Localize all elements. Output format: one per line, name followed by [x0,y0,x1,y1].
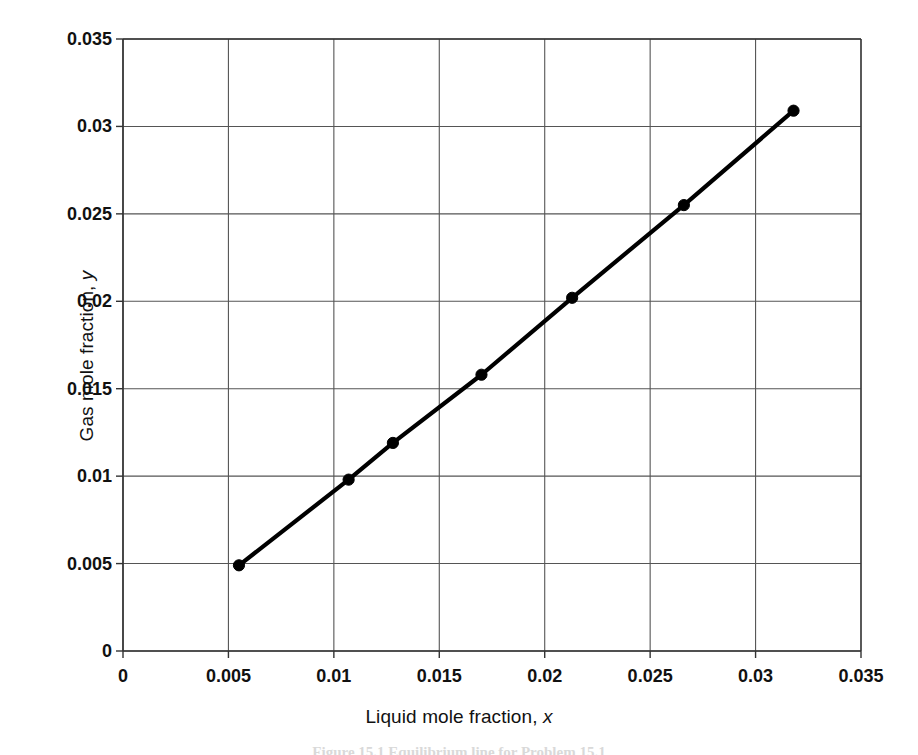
data-point-marker [678,200,689,211]
x-tick-label: 0.01 [316,666,351,687]
y-axis-title: Gas mole fraction, y [76,50,98,662]
x-tick-label: 0 [118,666,128,687]
x-tick-label: 0.035 [838,666,883,687]
y-axis-title-text: Gas mole fraction, [76,280,97,441]
series-line [239,111,794,566]
data-point-marker [788,105,799,116]
x-axis-title: Liquid mole fraction, x [0,706,918,728]
figure-root: 00.0050.010.0150.020.0250.030.035 00.005… [0,0,918,755]
x-tick-label: 0.03 [738,666,773,687]
gridlines-group [123,39,861,651]
figure-caption: Figure 15.1 Equilibrium line for Problem… [0,744,918,755]
data-point-marker [387,437,398,448]
chart-plot-area [0,0,918,755]
y-axis-variable: y [76,271,97,281]
data-point-marker [476,369,487,380]
data-point-marker [343,474,354,485]
x-tick-label: 0.025 [628,666,673,687]
axis-ticks-group [116,39,861,658]
axis-lines-group [123,39,861,651]
y-tick-label: 0.035 [2,29,112,50]
x-tick-label: 0.02 [527,666,562,687]
data-point-marker [233,560,244,571]
x-tick-label: 0.005 [206,666,251,687]
data-series-group [233,105,799,571]
x-tick-label: 0.015 [417,666,462,687]
data-point-marker [567,292,578,303]
x-axis-variable: x [543,706,553,727]
x-axis-title-text: Liquid mole fraction, [365,706,543,727]
